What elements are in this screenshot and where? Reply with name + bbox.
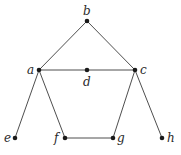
node-b xyxy=(85,19,90,24)
node-label-b: b xyxy=(83,4,91,18)
node-a xyxy=(37,68,42,73)
node-label-e: e xyxy=(4,131,11,145)
edge-b-a xyxy=(39,21,87,70)
node-f xyxy=(63,136,68,141)
node-label-d: d xyxy=(83,75,91,89)
node-label-f: f xyxy=(53,131,61,145)
node-label-g: g xyxy=(117,131,125,145)
node-c xyxy=(133,68,138,73)
graph-diagram: abcdefgh xyxy=(0,0,181,155)
edge-a-e xyxy=(15,70,39,138)
node-label-h: h xyxy=(167,131,175,145)
node-label-a: a xyxy=(27,63,34,77)
edge-g-c xyxy=(113,70,135,138)
edge-b-c xyxy=(87,21,135,70)
node-label-c: c xyxy=(140,63,147,77)
node-h xyxy=(160,136,165,141)
node-d xyxy=(85,68,90,73)
node-e xyxy=(13,136,18,141)
edge-c-h xyxy=(135,70,162,138)
edge-a-f xyxy=(39,70,65,138)
node-g xyxy=(111,136,116,141)
labels: abcdefgh xyxy=(4,4,175,145)
